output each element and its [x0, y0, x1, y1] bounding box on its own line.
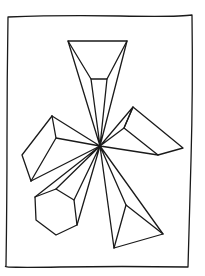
right-wedge — [100, 107, 183, 155]
sketch-canvas — [0, 0, 205, 276]
hexagonal-prism — [35, 146, 100, 235]
bottom-pyramid — [100, 146, 163, 248]
top-truncated-pyramid — [68, 41, 127, 146]
